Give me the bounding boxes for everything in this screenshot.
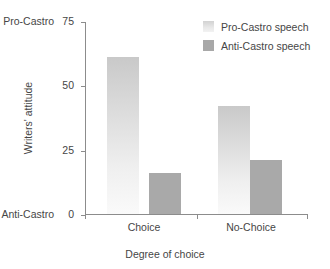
y-tick-label-0: 0: [68, 208, 74, 220]
x-tick-end: [307, 214, 308, 219]
bar-no-choice-pro-castro-speech: [218, 106, 250, 214]
y-tick-25: 25: [81, 151, 86, 152]
bar-choice-anti-castro-speech: [149, 173, 181, 214]
y-tick-label-50: 50: [62, 79, 74, 91]
x-tick-middle: [197, 214, 198, 219]
bar-no-choice-anti-castro-speech: [250, 160, 282, 214]
y-axis-title: Writers' attitude: [22, 82, 34, 154]
x-tick-start: [85, 214, 86, 219]
y-tick-75: 75 Pro-Castro: [81, 22, 86, 23]
y-axis-anchor-low: Anti-Castro: [1, 208, 54, 220]
bar-chart: Pro-Castro speech Anti-Castro speech Wri…: [0, 0, 330, 269]
y-axis-anchor-high: Pro-Castro: [3, 15, 54, 27]
y-tick-label-25: 25: [62, 144, 74, 156]
plot-area: 75 Pro-Castro 50 25 0 Anti-Castro Choice…: [85, 22, 308, 215]
y-tick-50: 50: [81, 86, 86, 87]
x-axis-title: Degree of choice: [0, 248, 330, 260]
x-category-label-no-choice: No-Choice: [226, 221, 276, 233]
y-axis-line: [85, 22, 86, 216]
bar-choice-pro-castro-speech: [107, 57, 139, 214]
x-category-label-choice: Choice: [128, 221, 161, 233]
y-tick-label-75: 75: [62, 15, 74, 27]
